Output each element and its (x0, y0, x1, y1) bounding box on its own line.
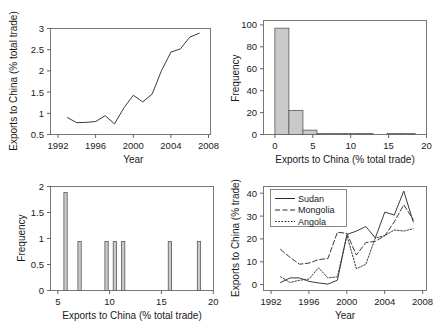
panel-b-bars (275, 28, 415, 134)
histogram-bar (303, 130, 317, 134)
histogram-bar (359, 133, 373, 134)
histogram-bar (64, 192, 67, 290)
panel-d-xlabel: Year (335, 310, 356, 321)
panel-c-ytick-2: 1 (39, 233, 44, 244)
panel-d-xtick-1: 1996 (298, 296, 319, 307)
panel-b-ytick-3: 60 (246, 63, 257, 74)
panel-c-ytick-1: 0.5 (31, 259, 44, 270)
histogram-bar (401, 133, 415, 134)
panel-c-x-axis: 5 10 15 20 (55, 291, 218, 308)
legend-label-angola: Angola (298, 217, 326, 227)
panel-d-x-axis: 1992 1996 2000 2004 2008 (261, 291, 434, 308)
panel-c-ylabel: Frequency (16, 214, 27, 261)
panel-c-xtick-2: 15 (156, 296, 167, 307)
panel-b-xtick-4: 20 (421, 140, 432, 151)
panel-d-ytick-1: 10 (246, 256, 257, 267)
panel-b-ytick-1: 20 (246, 107, 257, 118)
panel-d-line-chart: 0 10 20 30 40 1992 1996 2000 2004 2008 (228, 176, 445, 336)
panel-b-x-axis: 0 5 10 15 20 (272, 135, 432, 152)
panel-b-xtick-3: 15 (383, 140, 394, 151)
panel-c-xtick-1: 10 (104, 296, 115, 307)
legend-label-mongolia: Mongolia (298, 205, 335, 215)
panel-c-ytick-0: 0 (39, 285, 44, 296)
panel-a-ylabel: Exports to China (% total trade) (8, 11, 19, 151)
multi-panel-figure: 0.5 1 1.5 2 2.5 3 1992 1996 2000 2004 20… (0, 0, 445, 336)
panel-b-ytick-4: 80 (246, 41, 257, 52)
panel-c-histogram: 0 0.5 1 1.5 2 5 10 15 20 Exports to Chin… (0, 176, 228, 336)
panel-c-ytick-3: 1.5 (31, 207, 44, 218)
panel-d-series-angola (281, 229, 414, 283)
histogram-bar (387, 133, 401, 134)
panel-c-xtick-0: 5 (55, 296, 60, 307)
panel-b-xlabel: Exports to China (% total trade) (275, 154, 415, 165)
panel-b-ytick-5: 100 (241, 19, 257, 30)
panel-a-ytick-0: 0.5 (31, 129, 44, 140)
panel-d-ytick-0: 0 (252, 279, 257, 290)
panel-a-y-axis: 0.5 1 1.5 2 2.5 3 (31, 23, 51, 140)
panel-d-ytick-3: 30 (246, 211, 257, 222)
panel-a-xtick-3: 2004 (160, 140, 181, 151)
panel-b-ytick-0: 0 (252, 129, 257, 140)
panel-a-xtick-4: 2008 (198, 140, 219, 151)
panel-d-xtick-3: 2004 (374, 296, 395, 307)
histogram-bar (197, 241, 200, 290)
panel-b-xtick-1: 5 (310, 140, 315, 151)
histogram-bar (105, 241, 108, 290)
histogram-bar (317, 133, 331, 134)
panel-b-ylabel: Frequency (230, 54, 241, 101)
panel-a-ytick-2: 1.5 (31, 87, 44, 98)
panel-a-xtick-1: 1996 (85, 140, 106, 151)
panel-a-x-axis: 1992 1996 2000 2004 2008 (47, 135, 219, 152)
histogram-bar (113, 241, 116, 290)
panel-c-plot-frame (51, 187, 214, 291)
histogram-bar (289, 110, 303, 134)
panel-c-xlabel: Exports to China (% total trade) (62, 310, 202, 321)
histogram-bar (331, 133, 345, 134)
panel-d-legend: Sudan Mongolia Angola (271, 190, 347, 227)
histogram-bar (122, 241, 125, 290)
panel-b-y-axis: 0 20 40 60 80 100 (241, 19, 263, 140)
histogram-bar (168, 241, 171, 290)
panel-d-xtick-4: 2008 (412, 296, 433, 307)
histogram-bar (275, 28, 289, 134)
panel-b-xtick-2: 10 (345, 140, 356, 151)
panel-c-ytick-4: 2 (39, 181, 44, 192)
panel-a-ytick-4: 2.5 (31, 44, 44, 55)
panel-d-y-axis: 0 10 20 30 40 (246, 188, 263, 290)
panel-a-line-chart: 0.5 1 1.5 2 2.5 3 1992 1996 2000 2004 20… (0, 0, 228, 176)
panel-d-ylabel: Exports to China (% trade) (230, 179, 241, 297)
histogram-bar (345, 133, 359, 134)
panel-c-xtick-3: 20 (208, 296, 219, 307)
panel-c-y-axis: 0 0.5 1 1.5 2 (31, 181, 51, 296)
panel-a-ytick-1: 1 (39, 108, 44, 119)
panel-d-xtick-2: 2000 (336, 296, 357, 307)
panel-a-xlabel: Year (123, 154, 144, 165)
panel-c-bars (64, 192, 201, 290)
panel-a-data-line (67, 33, 199, 124)
panel-d-xtick-0: 1992 (261, 296, 282, 307)
panel-a-ytick-5: 3 (39, 23, 44, 34)
panel-a-plot-frame (51, 29, 211, 135)
panel-d-ytick-2: 20 (246, 233, 257, 244)
legend-label-sudan: Sudan (298, 194, 324, 204)
panel-a-xtick-2: 2000 (123, 140, 144, 151)
panel-a-xtick-0: 1992 (47, 140, 68, 151)
panel-b-ytick-2: 40 (246, 85, 257, 96)
histogram-bar (78, 241, 81, 290)
panel-b-xtick-0: 0 (272, 140, 277, 151)
panel-b-histogram: 0 20 40 60 80 100 0 5 10 15 20 Exports (228, 0, 445, 176)
panel-d-ytick-4: 40 (246, 188, 257, 199)
panel-a-ytick-3: 2 (39, 65, 44, 76)
